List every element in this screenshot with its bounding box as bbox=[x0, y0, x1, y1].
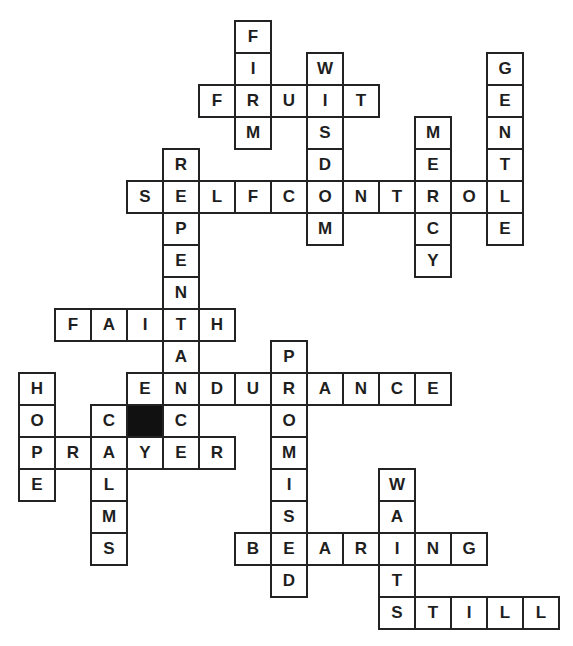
crossword-cell[interactable]: D bbox=[270, 564, 308, 598]
crossword-cell[interactable]: F bbox=[234, 20, 272, 54]
crossword-cell[interactable]: T bbox=[162, 308, 200, 342]
black-square bbox=[126, 404, 164, 438]
crossword-cell[interactable]: G bbox=[486, 52, 524, 86]
crossword-cell[interactable]: A bbox=[90, 436, 128, 470]
crossword-cell[interactable]: N bbox=[486, 116, 524, 150]
crossword-cell[interactable]: F bbox=[198, 84, 236, 118]
crossword-cell[interactable]: M bbox=[90, 500, 128, 534]
crossword-cell[interactable]: S bbox=[90, 532, 128, 566]
crossword-cell[interactable]: I bbox=[126, 308, 164, 342]
crossword-cell[interactable]: U bbox=[270, 84, 308, 118]
crossword-cell[interactable]: E bbox=[126, 372, 164, 406]
crossword-cell[interactable]: N bbox=[162, 276, 200, 310]
crossword-cell[interactable]: F bbox=[234, 180, 272, 214]
crossword-cell[interactable]: E bbox=[162, 244, 200, 278]
crossword-cell[interactable]: H bbox=[198, 308, 236, 342]
crossword-cell[interactable]: L bbox=[522, 596, 560, 630]
crossword-cell[interactable]: A bbox=[378, 500, 416, 534]
crossword-cell[interactable]: T bbox=[342, 84, 380, 118]
crossword-cell[interactable]: T bbox=[378, 564, 416, 598]
crossword-cell[interactable]: S bbox=[126, 180, 164, 214]
crossword-cell[interactable]: S bbox=[306, 116, 344, 150]
crossword-cell[interactable]: E bbox=[414, 148, 452, 182]
crossword-cell[interactable]: Y bbox=[414, 244, 452, 278]
crossword-cell[interactable]: R bbox=[54, 436, 92, 470]
crossword-cell[interactable]: I bbox=[270, 468, 308, 502]
crossword-cell[interactable]: M bbox=[270, 436, 308, 470]
crossword-cell[interactable]: O bbox=[450, 180, 488, 214]
crossword-cell[interactable]: L bbox=[486, 180, 524, 214]
crossword-cell[interactable]: G bbox=[450, 532, 488, 566]
crossword-cell[interactable]: C bbox=[378, 372, 416, 406]
crossword-cell[interactable]: R bbox=[270, 372, 308, 406]
crossword-cell[interactable]: I bbox=[234, 52, 272, 86]
crossword-cell[interactable]: C bbox=[90, 404, 128, 438]
crossword-cell[interactable]: M bbox=[306, 212, 344, 246]
crossword-cell[interactable]: R bbox=[198, 436, 236, 470]
crossword-cell[interactable]: O bbox=[270, 404, 308, 438]
crossword-cell[interactable]: T bbox=[378, 180, 416, 214]
crossword-cell[interactable]: E bbox=[486, 212, 524, 246]
crossword-cell[interactable]: L bbox=[90, 468, 128, 502]
crossword-cell[interactable]: E bbox=[270, 532, 308, 566]
crossword-cell[interactable]: U bbox=[234, 372, 272, 406]
crossword-cell[interactable]: B bbox=[234, 532, 272, 566]
crossword-cell[interactable]: D bbox=[198, 372, 236, 406]
crossword-cell[interactable]: L bbox=[198, 180, 236, 214]
crossword-cell[interactable]: T bbox=[486, 148, 524, 182]
crossword-cell[interactable]: S bbox=[378, 596, 416, 630]
crossword-cell[interactable]: M bbox=[414, 116, 452, 150]
crossword-cell[interactable]: A bbox=[162, 340, 200, 374]
crossword-cell[interactable]: R bbox=[342, 532, 380, 566]
crossword-cell[interactable]: C bbox=[414, 212, 452, 246]
crossword-cell[interactable]: C bbox=[162, 404, 200, 438]
crossword-cell[interactable]: R bbox=[162, 148, 200, 182]
crossword-cell[interactable]: H bbox=[18, 372, 56, 406]
crossword-cell[interactable]: N bbox=[414, 532, 452, 566]
crossword-cell[interactable]: W bbox=[306, 52, 344, 86]
crossword-cell[interactable]: F bbox=[54, 308, 92, 342]
crossword-cell[interactable]: Y bbox=[126, 436, 164, 470]
crossword-cell[interactable]: E bbox=[162, 436, 200, 470]
crossword-cell[interactable]: E bbox=[486, 84, 524, 118]
crossword-cell[interactable]: E bbox=[18, 468, 56, 502]
crossword-cell[interactable]: I bbox=[378, 532, 416, 566]
crossword-cell[interactable]: N bbox=[342, 180, 380, 214]
crossword-cell[interactable]: M bbox=[234, 116, 272, 150]
crossword-cell[interactable]: D bbox=[306, 148, 344, 182]
crossword-cell[interactable]: P bbox=[162, 212, 200, 246]
crossword-cell[interactable]: T bbox=[414, 596, 452, 630]
crossword-cell[interactable]: A bbox=[306, 372, 344, 406]
crossword-cell[interactable]: I bbox=[306, 84, 344, 118]
crossword-cell[interactable]: I bbox=[450, 596, 488, 630]
crossword-cell[interactable]: N bbox=[342, 372, 380, 406]
crossword-cell[interactable]: O bbox=[18, 404, 56, 438]
crossword-cell[interactable]: S bbox=[270, 500, 308, 534]
crossword-cell[interactable]: C bbox=[270, 180, 308, 214]
crossword-cell[interactable]: N bbox=[162, 372, 200, 406]
crossword-cell[interactable]: E bbox=[162, 180, 200, 214]
crossword-grid: FIRMWISDOMGENTLEFUTMERCYREPENTANCESLFCNT… bbox=[0, 0, 573, 646]
crossword-cell[interactable]: P bbox=[18, 436, 56, 470]
crossword-cell[interactable]: A bbox=[306, 532, 344, 566]
crossword-cell[interactable]: R bbox=[234, 84, 272, 118]
crossword-cell[interactable]: R bbox=[414, 180, 452, 214]
crossword-cell[interactable]: W bbox=[378, 468, 416, 502]
crossword-cell[interactable]: O bbox=[306, 180, 344, 214]
crossword-cell[interactable]: E bbox=[414, 372, 452, 406]
crossword-cell[interactable]: P bbox=[270, 340, 308, 374]
crossword-cell[interactable]: A bbox=[90, 308, 128, 342]
crossword-cell[interactable]: L bbox=[486, 596, 524, 630]
